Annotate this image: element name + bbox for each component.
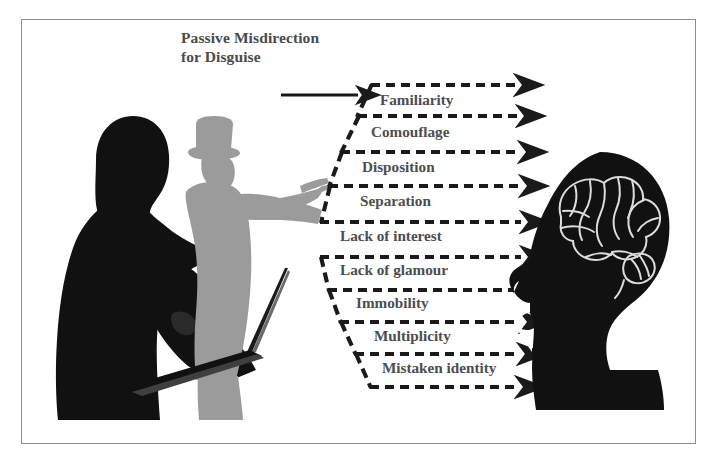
- caption-line-1: Passive Misdirection: [181, 28, 401, 47]
- flow-label-separation: Separation: [360, 193, 431, 209]
- caption-line-2: for Disguise: [181, 47, 401, 66]
- flow-label-comouflage: Comouflage: [371, 124, 449, 140]
- flow-label-lack-of-interest: Lack of interest: [340, 228, 442, 244]
- figure-root: Passive Misdirection for Disguise Famili…: [0, 0, 710, 469]
- flow-label-familiarity: Familiarity: [380, 92, 453, 108]
- flow-label-multiplicity: Multiplicity: [374, 328, 451, 344]
- caption-passive-misdirection: Passive Misdirection for Disguise: [181, 28, 401, 66]
- flow-label-immobility: Immobility: [356, 295, 429, 311]
- flow-label-disposition: Disposition: [362, 159, 435, 175]
- flow-label-mistaken-identity: Mistaken identity: [382, 360, 496, 376]
- flow-label-lack-of-glamour: Lack of glamour: [340, 262, 448, 278]
